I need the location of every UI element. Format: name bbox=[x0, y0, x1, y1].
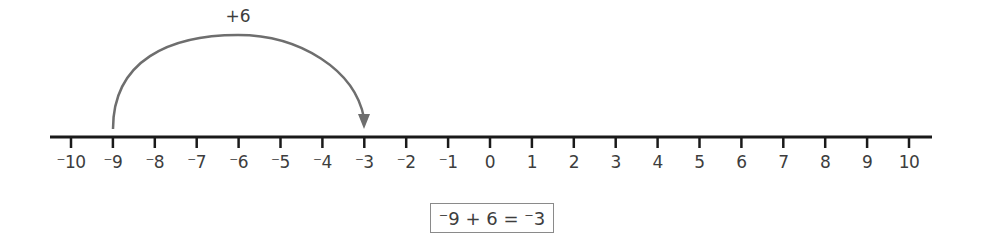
tick-label: ⁻8 bbox=[145, 152, 164, 172]
tick-label: 8 bbox=[820, 152, 830, 172]
tick-label: 5 bbox=[694, 152, 704, 172]
tick-label: ⁻6 bbox=[229, 152, 248, 172]
tick-label: 7 bbox=[778, 152, 788, 172]
jump-arrow bbox=[113, 35, 364, 129]
tick-label: ⁻2 bbox=[397, 152, 416, 172]
arrowhead-icon bbox=[358, 114, 370, 129]
tick-label: 9 bbox=[862, 152, 872, 172]
tick-label: ⁻4 bbox=[313, 152, 332, 172]
tick-label: 1 bbox=[527, 152, 537, 172]
tick-label: 4 bbox=[652, 152, 662, 172]
jump-label: +6 bbox=[225, 6, 250, 26]
tick-label: ⁻9 bbox=[103, 152, 122, 172]
tick-label: 3 bbox=[611, 152, 621, 172]
tick-label: 10 bbox=[899, 152, 920, 172]
tick-label: ⁻7 bbox=[187, 152, 206, 172]
tick-label: ⁻5 bbox=[271, 152, 290, 172]
tick-marks bbox=[71, 137, 909, 148]
tick-label: ⁻3 bbox=[355, 152, 374, 172]
tick-label: 2 bbox=[569, 152, 579, 172]
tick-label: ⁻1 bbox=[439, 152, 458, 172]
equation-box: ⁻9 + 6 = ⁻3 bbox=[430, 203, 554, 233]
tick-label: ⁻10 bbox=[56, 152, 85, 172]
tick-label: 6 bbox=[736, 152, 746, 172]
tick-label: 0 bbox=[485, 152, 495, 172]
